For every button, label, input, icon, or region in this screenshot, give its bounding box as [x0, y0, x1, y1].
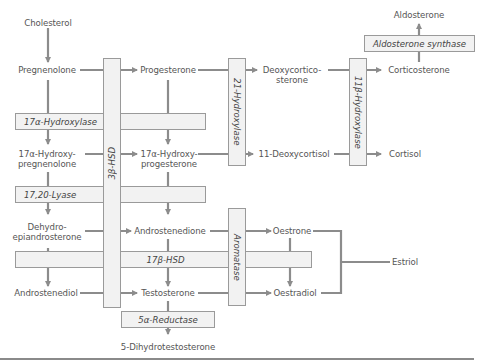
enzyme-label: Aldosterone synthase	[373, 39, 466, 49]
enzyme-label: 17,20-Lyase	[24, 190, 76, 200]
enzyme-17b-hsd: 17β-HSD	[15, 251, 312, 268]
node-label: Oestrone	[273, 226, 311, 236]
node-label-line1: Dehydro-	[13, 222, 82, 232]
node-label-line1: Deoxycortico-	[263, 65, 321, 75]
node-label: Cortisol	[389, 149, 421, 159]
bottom-divider	[0, 358, 474, 360]
node-label: Testosterone	[141, 288, 194, 298]
node-corticosterone: Corticosterone	[388, 65, 450, 75]
node-11-deoxycortisol: 11-Deoxycortisol	[259, 149, 330, 159]
node-label-line2: sterone	[263, 75, 321, 85]
node-label: 5-Dihydrotestosterone	[121, 342, 215, 352]
node-label-line2: epiandrosterone	[13, 232, 82, 242]
node-label-line1: 17α-Hydroxy-	[141, 149, 198, 159]
enzyme-3b-hsd: 3β-HSD	[103, 58, 121, 308]
enzyme-label: 21-Hydroxylase	[232, 78, 242, 145]
enzyme-aldosterone-synthase: Aldosterone synthase	[364, 35, 475, 52]
node-17a-hydroxyprogesterone: 17α-Hydroxy- progesterone	[141, 149, 198, 169]
node-label: Androstenedione	[134, 226, 206, 236]
enzyme-label: 11β-Hydroxylase	[353, 76, 363, 149]
enzyme-label: 3β-HSD	[107, 147, 117, 180]
node-label-line1: 17α-Hydroxy-	[18, 149, 76, 159]
enzyme-11b-hydroxylase: 11β-Hydroxylase	[349, 58, 367, 166]
node-5-dihydrotestosterone: 5-Dihydrotestosterone	[121, 342, 215, 352]
node-label: Androstenediol	[14, 288, 77, 298]
pathway-connectors	[0, 0, 491, 364]
enzyme-aromatase: Aromatase	[228, 208, 246, 306]
node-label: Oestradiol	[273, 288, 316, 298]
node-cortisol: Cortisol	[389, 149, 421, 159]
node-deoxycorticosterone: Deoxycortico- sterone	[263, 65, 321, 85]
node-label: Aldosterone	[394, 10, 444, 20]
node-aldosterone: Aldosterone	[394, 10, 444, 20]
node-label: Progesterone	[140, 65, 196, 75]
node-cholesterol: Cholesterol	[24, 18, 71, 28]
enzyme-label: 17α-Hydroxylase	[24, 117, 97, 127]
node-label: Cholesterol	[24, 18, 71, 28]
node-label: Corticosterone	[388, 65, 450, 75]
node-oestradiol: Oestradiol	[273, 288, 316, 298]
node-oestrone: Oestrone	[273, 226, 311, 236]
node-androstenedione: Androstenedione	[134, 226, 206, 236]
node-dhea: Dehydro- epiandrosterone	[13, 222, 82, 242]
node-pregnenolone: Pregnenolone	[18, 65, 76, 75]
node-label: Pregnenolone	[18, 65, 76, 75]
node-label: Estriol	[392, 257, 418, 267]
node-label-line2: progesterone	[141, 159, 198, 169]
enzyme-label: 17β-HSD	[146, 255, 184, 265]
node-androstenediol: Androstenediol	[14, 288, 77, 298]
node-progesterone: Progesterone	[140, 65, 196, 75]
node-testosterone: Testosterone	[141, 288, 194, 298]
node-label: 11-Deoxycortisol	[259, 149, 330, 159]
node-estriol: Estriol	[392, 257, 418, 267]
enzyme-label: 5α-Reductase	[138, 315, 198, 325]
node-label-line2: pregnenolone	[18, 159, 76, 169]
node-17a-hydroxypregnenolone: 17α-Hydroxy- pregnenolone	[18, 149, 76, 169]
enzyme-label: Aromatase	[232, 234, 242, 281]
enzyme-21-hydroxylase: 21-Hydroxylase	[228, 58, 246, 166]
enzyme-5a-reductase: 5α-Reductase	[121, 311, 215, 328]
